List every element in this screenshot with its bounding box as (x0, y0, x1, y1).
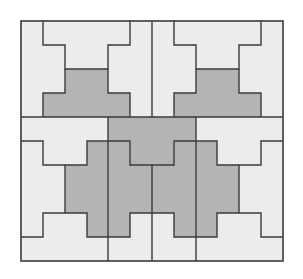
tiling-puzzle-diagram (0, 0, 303, 279)
